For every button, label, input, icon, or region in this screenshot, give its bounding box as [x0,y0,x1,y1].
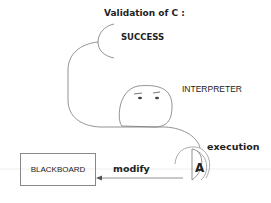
result-label: SUCCESS [121,32,164,42]
blackboard-label: BLACKBOARD [31,165,86,174]
success-bracket [98,24,114,58]
edge-label: modify [113,163,150,174]
interpreter-head-icon [119,86,172,127]
arrow-head-icon [96,176,102,181]
diagram: Validation of C : SUCCESS INTERPRETER ex… [0,0,271,203]
diagram-title: Validation of C : [104,8,185,18]
action-label: execution [207,141,260,152]
blackboard-box: BLACKBOARD [20,153,96,186]
agent-label: INTERPRETER [182,84,242,94]
actor-symbol: A [195,161,204,175]
flow-line [68,42,200,148]
